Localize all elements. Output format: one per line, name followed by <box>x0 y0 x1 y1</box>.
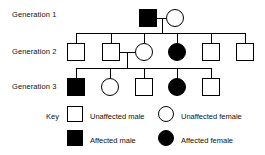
gen2-descent-line <box>127 52 128 68</box>
gen2-stem-2 <box>111 33 112 43</box>
key-unaffected-female-symbol <box>158 106 174 122</box>
pedigree-chart: Generation 1Generation 2Generation 3 Key… <box>0 0 265 155</box>
key-unaffected-female-text: Unaffected female <box>181 113 242 121</box>
g3-i1-affected-male[interactable] <box>67 78 85 96</box>
g2-i1-unaffected-male[interactable] <box>67 43 85 61</box>
gen3-stem-3 <box>144 68 145 78</box>
g2-i4-affected-female[interactable] <box>168 43 186 61</box>
g2-i5-unaffected-male[interactable] <box>202 43 220 61</box>
generation-2-label: Generation 2 <box>12 48 57 56</box>
gen2-stem-3 <box>144 33 145 43</box>
gen2-stem-6 <box>245 33 246 43</box>
g1-i1-affected-male[interactable] <box>139 9 157 27</box>
g2-i6-unaffected-male[interactable] <box>236 43 254 61</box>
gen1-descent-line <box>162 18 163 33</box>
gen2-stem-5 <box>211 33 212 43</box>
gen2-stem-4 <box>177 33 178 43</box>
key-affected-female-symbol <box>158 130 174 146</box>
key-affected-male-symbol <box>67 130 83 146</box>
generation-3-label: Generation 3 <box>12 83 57 91</box>
gen3-stem-2 <box>110 68 111 78</box>
gen3-stem-4 <box>177 68 178 78</box>
gen3-stem-5 <box>211 68 212 78</box>
key-affected-male-text: Affected male <box>90 137 136 145</box>
key-unaffected-male-symbol <box>67 106 83 122</box>
g3-i4-affected-female[interactable] <box>168 78 186 96</box>
g2-i2-unaffected-male[interactable] <box>102 43 120 61</box>
key-title: Key <box>46 113 59 121</box>
g3-i3-unaffected-male[interactable] <box>135 78 153 96</box>
gen2-stem-1 <box>76 33 77 43</box>
g3-i2-unaffected-female[interactable] <box>101 78 119 96</box>
g3-i5-unaffected-male[interactable] <box>202 78 220 96</box>
g1-i2-unaffected-female[interactable] <box>166 9 184 27</box>
key-unaffected-male-text: Unaffected male <box>90 113 144 121</box>
key-affected-female-text: Affected female <box>181 137 233 145</box>
g2-i3-unaffected-female[interactable] <box>135 43 153 61</box>
gen2-sibship-line <box>76 33 245 34</box>
generation-1-label: Generation 1 <box>12 11 57 19</box>
gen3-stem-1 <box>76 68 77 78</box>
